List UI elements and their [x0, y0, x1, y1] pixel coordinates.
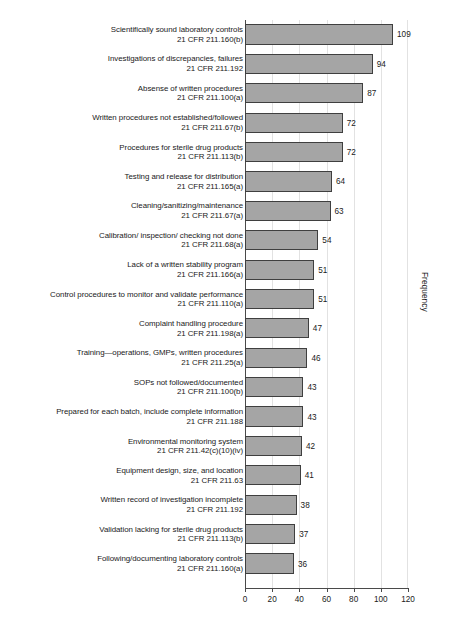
category-regulation: 21 CFR 211.198(a): [8, 329, 243, 339]
category-label: Absense of written procedures21 CFR 211.…: [8, 84, 243, 103]
category-regulation: 21 CFR 211.42(c)(10)(iv): [8, 446, 243, 456]
bar: 46: [245, 348, 307, 368]
bar-value-label: 47: [313, 324, 322, 333]
bar-value-label: 72: [347, 148, 356, 157]
category-regulation: 21 CFR 211.160(a): [8, 564, 243, 574]
bar-rect: [245, 406, 303, 426]
bar-rect: [245, 436, 302, 456]
category-label: Following/documenting laboratory control…: [8, 554, 243, 573]
category-name: Validation lacking for sterile drug prod…: [99, 525, 243, 534]
bar-row: Scientifically sound laboratory controls…: [0, 20, 456, 49]
bar-rect: [245, 348, 307, 368]
bar: 87: [245, 83, 363, 103]
x-axis-tick: [381, 588, 382, 592]
x-axis-tick: [299, 588, 300, 592]
bar-value-label: 36: [298, 559, 307, 568]
category-label: Equipment design, size, and location21 C…: [8, 466, 243, 485]
category-label: Cleaning/sanitizing/maintenance21 CFR 21…: [8, 201, 243, 220]
category-label: Environmental monitoring system21 CFR 21…: [8, 437, 243, 456]
y-axis-title: Frequency: [420, 272, 430, 312]
bar-row: Validation lacking for sterile drug prod…: [0, 520, 456, 549]
bar-row: Prepared for each batch, include complet…: [0, 402, 456, 431]
bar-value-label: 37: [299, 530, 308, 539]
category-label: Investigations of discrepancies, failure…: [8, 54, 243, 73]
bar-value-label: 72: [347, 118, 356, 127]
bar-rect: [245, 230, 318, 250]
bar-rows: Scientifically sound laboratory controls…: [0, 20, 456, 578]
bar-rect: [245, 495, 297, 515]
bar-row: Equipment design, size, and location21 C…: [0, 461, 456, 490]
bar: 72: [245, 113, 343, 133]
bar-row: SOPs not followed/documented21 CFR 211.1…: [0, 373, 456, 402]
bar-rect: [245, 24, 393, 44]
bar-row: Cleaning/sanitizing/maintenance21 CFR 21…: [0, 196, 456, 225]
category-name: Scientifically sound laboratory controls: [111, 25, 243, 34]
bar-row: Written procedures not established/follo…: [0, 108, 456, 137]
x-axis-tick-label: 40: [295, 595, 304, 604]
category-label: Scientifically sound laboratory controls…: [8, 25, 243, 44]
category-regulation: 21 CFR 211.100(a): [8, 93, 243, 103]
bar-value-label: 63: [335, 206, 344, 215]
category-regulation: 21 CFR 211.67(a): [8, 211, 243, 221]
category-regulation: 21 CFR 211.110(a): [8, 299, 243, 309]
category-label: Control procedures to monitor and valida…: [8, 290, 243, 309]
bar-rect: [245, 553, 294, 573]
bar: 43: [245, 377, 303, 397]
x-axis-tick: [245, 588, 246, 592]
bar-row: Control procedures to monitor and valida…: [0, 285, 456, 314]
bar: 47: [245, 318, 309, 338]
category-name: Lack of a written stability program: [127, 260, 243, 269]
bar-rect: [245, 377, 303, 397]
category-name: Cleaning/sanitizing/maintenance: [131, 201, 243, 210]
category-regulation: 21 CFR 211.67(b): [8, 123, 243, 133]
category-name: Equipment design, size, and location: [116, 466, 243, 475]
category-name: Complaint handling procedure: [139, 319, 243, 328]
category-label: SOPs not followed/documented21 CFR 211.1…: [8, 378, 243, 397]
bar: 109: [245, 24, 393, 44]
bar: 51: [245, 260, 314, 280]
category-name: Investigations of discrepancies, failure…: [108, 54, 243, 63]
bar-row: Complaint handling procedure21 CFR 211.1…: [0, 314, 456, 343]
bar: 36: [245, 553, 294, 573]
x-axis-tick-label: 80: [349, 595, 358, 604]
category-regulation: 21 CFR 211.113(b): [8, 534, 243, 544]
x-axis-tick: [272, 588, 273, 592]
bar-rect: [245, 142, 343, 162]
bar-value-label: 54: [322, 236, 331, 245]
bar-row: Calibration/ inspection/ checking not do…: [0, 226, 456, 255]
x-axis-tick-label: 120: [401, 595, 415, 604]
bar: 37: [245, 524, 295, 544]
category-label: Procedures for sterile drug products21 C…: [8, 143, 243, 162]
category-regulation: 21 CFR 211.25(a): [8, 358, 243, 368]
category-regulation: 21 CFR 211.113(b): [8, 152, 243, 162]
bar-rect: [245, 171, 332, 191]
category-name: Calibration/ inspection/ checking not do…: [99, 231, 243, 240]
bar-rect: [245, 113, 343, 133]
bar-row: Absense of written procedures21 CFR 211.…: [0, 79, 456, 108]
category-label: Prepared for each batch, include complet…: [8, 407, 243, 426]
category-label: Training—operations, GMPs, written proce…: [8, 348, 243, 367]
bar-rect: [245, 83, 363, 103]
bar-value-label: 64: [336, 177, 345, 186]
category-regulation: 21 CFR 211.188: [8, 417, 243, 427]
bar-row: Written record of investigation incomple…: [0, 490, 456, 519]
x-axis-tick-label: 60: [322, 595, 331, 604]
category-name: Absense of written procedures: [138, 84, 243, 93]
bar-row: Investigations of discrepancies, failure…: [0, 49, 456, 78]
bar-rect: [245, 54, 373, 74]
bar: 51: [245, 289, 314, 309]
bar-row: Environmental monitoring system21 CFR 21…: [0, 431, 456, 460]
bar-row: Lack of a written stability program21 CF…: [0, 255, 456, 284]
x-axis-tick: [354, 588, 355, 592]
category-label: Calibration/ inspection/ checking not do…: [8, 231, 243, 250]
category-regulation: 21 CFR 211.100(b): [8, 387, 243, 397]
bar-value-label: 94: [377, 59, 386, 68]
x-axis-tick: [327, 588, 328, 592]
category-name: Testing and release for distribution: [125, 172, 243, 181]
category-regulation: 21 CFR 211.160(b): [8, 35, 243, 45]
category-regulation: 21 CFR 211.63: [8, 476, 243, 486]
bar-rect: [245, 524, 295, 544]
bar-rect: [245, 260, 314, 280]
x-axis-tick: [408, 588, 409, 592]
bar: 94: [245, 54, 373, 74]
